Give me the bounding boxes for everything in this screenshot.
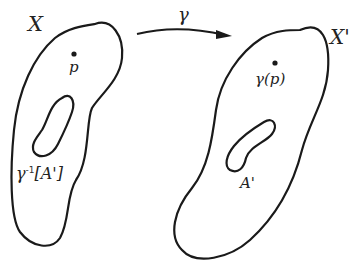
preimage-label-exponent: -1 <box>26 165 35 175</box>
map-arrow <box>137 29 225 35</box>
subset-a-prime-outline <box>227 120 275 171</box>
set-x-label: X <box>28 14 43 35</box>
set-x-outline <box>12 23 123 246</box>
point-p-label: p <box>69 60 79 75</box>
preimage-label-gamma: γ <box>16 164 26 183</box>
preimage-label-arg: [A'] <box>35 164 63 183</box>
point-p <box>71 51 76 56</box>
preimage-label: γ-1[A'] <box>16 166 63 182</box>
set-x-prime-outline <box>174 27 328 258</box>
diagram-drawing <box>0 0 357 267</box>
preimage-subset-outline <box>33 96 73 156</box>
point-gamma-p-label: γ(p) <box>255 72 285 87</box>
diagram-canvas: X p γ-1[A'] γ X' γ(p) A' <box>0 0 357 267</box>
subset-a-prime-label: A' <box>240 176 255 191</box>
arrowhead-icon <box>216 30 232 39</box>
point-gamma-p <box>272 60 277 65</box>
set-x-prime-label: X' <box>330 27 350 47</box>
map-label: γ <box>178 6 189 24</box>
